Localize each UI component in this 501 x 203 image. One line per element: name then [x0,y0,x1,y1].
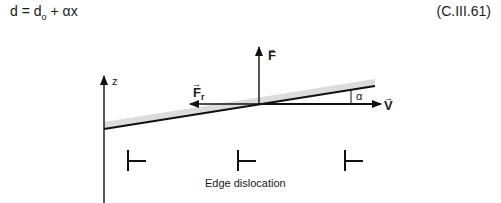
velocity-label: V [384,98,393,113]
inclined-surface-line [104,86,375,129]
friction-label: Fr [193,85,205,102]
z-axis-label: z [112,75,118,87]
dislocation-symbol [238,150,256,171]
force-label: F [268,48,276,63]
dislocation-symbol [128,150,146,171]
caption-edge-dislocation: Edge dislocation [205,177,286,189]
dislocation-symbol [345,150,363,171]
angle-label: α [356,90,363,102]
dislocation-diagram: z → F → Fr → V α Edge dislocation [0,0,501,203]
